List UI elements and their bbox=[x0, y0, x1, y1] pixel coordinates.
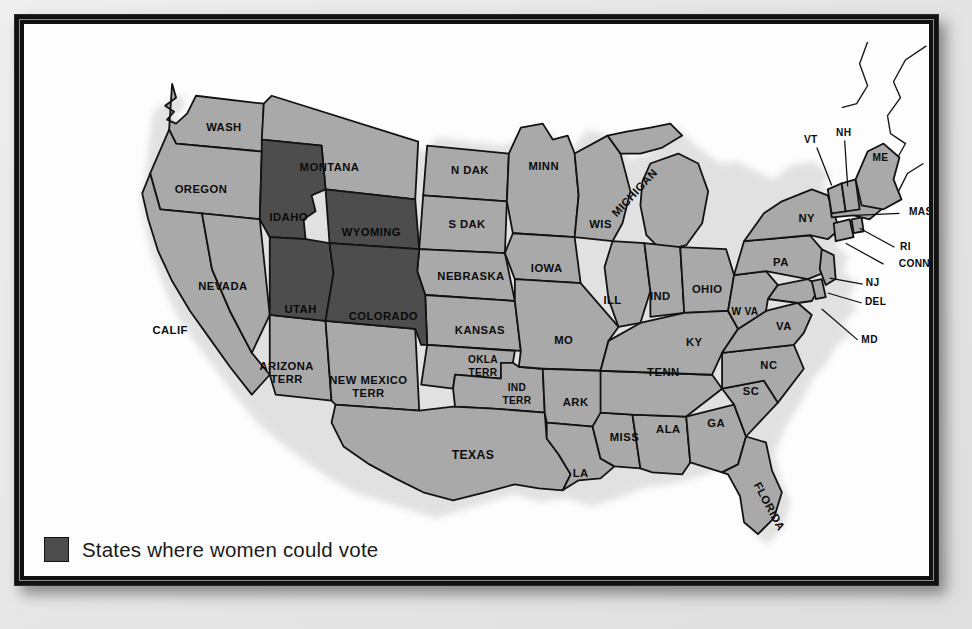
map-label: NEVADA bbox=[198, 280, 247, 292]
state-ohio[interactable] bbox=[680, 247, 734, 313]
map-label: WASH bbox=[206, 121, 242, 133]
map-label: WYOMING bbox=[342, 226, 401, 238]
leader-line bbox=[860, 228, 895, 247]
map-label: NC bbox=[760, 359, 777, 371]
great-lakes-north-outline bbox=[842, 42, 868, 108]
map-label: RI bbox=[900, 241, 911, 252]
map-label: CONN bbox=[899, 258, 929, 269]
map-label: MINN bbox=[528, 160, 559, 172]
state-wyoming[interactable] bbox=[326, 189, 420, 249]
state-minnesota[interactable] bbox=[507, 124, 579, 238]
map-label: VT bbox=[804, 134, 818, 145]
state-washington[interactable] bbox=[165, 84, 264, 152]
state-iowa[interactable] bbox=[505, 233, 581, 283]
map-label: NH bbox=[836, 127, 851, 138]
map-label: NY bbox=[799, 212, 816, 224]
legend-swatch bbox=[44, 537, 69, 562]
picture-frame: United States map showing states where w… bbox=[14, 14, 939, 586]
map-label: ALA bbox=[656, 423, 680, 435]
map-label: MISS bbox=[610, 431, 639, 443]
map-label: MO bbox=[554, 334, 573, 346]
map-panel: United States map showing states where w… bbox=[24, 24, 929, 576]
map-label: UTAH bbox=[285, 303, 317, 315]
leader-line bbox=[845, 141, 848, 187]
map-label: W VA bbox=[732, 306, 759, 317]
map-label: TENN bbox=[647, 366, 679, 378]
map-container: United States map showing states where w… bbox=[24, 24, 929, 576]
map-label: TEXAS bbox=[452, 448, 495, 462]
united-states-map[interactable]: United States map showing states where w… bbox=[24, 24, 929, 576]
state-indiana[interactable] bbox=[644, 243, 684, 317]
map-label: IND bbox=[650, 290, 671, 302]
map-label: CALIF bbox=[152, 324, 187, 336]
map-label: LA bbox=[573, 467, 589, 479]
map-label: NJ bbox=[866, 277, 880, 288]
map-label: IOWA bbox=[531, 262, 563, 274]
map-label: N DAK bbox=[451, 164, 489, 176]
map-label: PA bbox=[773, 256, 789, 268]
map-label: OREGON bbox=[175, 183, 228, 195]
map-label: NEBRASKA bbox=[437, 270, 504, 282]
map-label: OKLATERR bbox=[468, 354, 498, 378]
map-label: COLORADO bbox=[349, 310, 418, 322]
territory-arizona[interactable] bbox=[270, 315, 332, 401]
map-label: WIS bbox=[589, 218, 612, 230]
map-label: IDAHO bbox=[269, 211, 308, 223]
map-label: MD bbox=[861, 334, 877, 345]
map-label: MONTANA bbox=[300, 161, 360, 173]
legend: States where women could vote bbox=[44, 537, 378, 562]
map-label: ARK bbox=[563, 396, 589, 408]
leader-line bbox=[846, 243, 884, 264]
state-connecticut[interactable] bbox=[834, 219, 854, 241]
state-rhode-island[interactable] bbox=[852, 217, 864, 233]
map-label: ME bbox=[873, 152, 889, 163]
legend-label: States where women could vote bbox=[82, 538, 378, 562]
map-label: GA bbox=[707, 417, 725, 429]
map-label: DEL bbox=[865, 296, 886, 307]
map-label: VA bbox=[776, 320, 792, 332]
map-label: S DAK bbox=[448, 218, 486, 230]
map-label: KANSAS bbox=[455, 324, 505, 336]
map-label: KY bbox=[686, 336, 703, 348]
map-label: OHIO bbox=[692, 283, 723, 295]
map-label: ILL bbox=[603, 294, 621, 306]
non-suffrage-states-group bbox=[142, 84, 901, 534]
map-label: MASS bbox=[909, 206, 929, 217]
map-label: SC bbox=[743, 385, 760, 397]
